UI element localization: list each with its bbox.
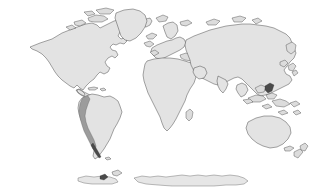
world-map-container: [0, 0, 320, 190]
world-map-svg: [0, 0, 320, 190]
